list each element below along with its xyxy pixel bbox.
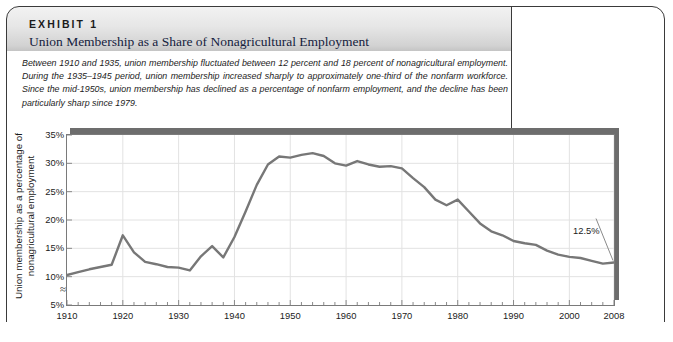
y-axis-tick-label: 15% bbox=[45, 242, 64, 253]
y-axis-tick-label: 5% bbox=[50, 299, 64, 310]
y-axis-tick-label: 25% bbox=[45, 186, 64, 197]
y-axis-tick-label: 35% bbox=[45, 129, 64, 140]
endpoint-annotation: 12.5% bbox=[573, 225, 600, 236]
x-axis-tick-label: 1990 bbox=[503, 310, 524, 321]
y-axis-tick-label: 30% bbox=[45, 157, 64, 168]
y-axis-break-icon: ≈ bbox=[60, 285, 66, 293]
y-axis-tick-label: 20% bbox=[45, 214, 64, 225]
x-axis-tick-label: 2000 bbox=[559, 310, 580, 321]
exhibit-header-band: EXHIBIT 1 Union Membership as a Share of… bbox=[7, 7, 511, 51]
exhibit-description: Between 1910 and 1935, union membership … bbox=[22, 57, 508, 110]
frame-bottom-mask bbox=[0, 322, 673, 342]
x-axis-tick-label: 1940 bbox=[224, 310, 245, 321]
exhibit-number-label: EXHIBIT 1 bbox=[29, 18, 98, 30]
x-axis-tick-label: 1980 bbox=[447, 310, 468, 321]
x-axis-tick-label: 1930 bbox=[168, 310, 189, 321]
column-divider bbox=[511, 7, 512, 129]
chart-container: 5%10%15%20%25%30%35% ≈ Union membership … bbox=[0, 126, 673, 342]
plot-area bbox=[66, 134, 615, 306]
x-axis-tick-label: 1950 bbox=[280, 310, 301, 321]
y-axis-label: Union membership as a percentage of nona… bbox=[13, 121, 37, 311]
y-axis-tick-label: 10% bbox=[45, 271, 64, 282]
x-axis-tick-label: 1910 bbox=[57, 310, 78, 321]
x-axis-tick-label: 1970 bbox=[391, 310, 412, 321]
exhibit-title: Union Membership as a Share of Nonagricu… bbox=[29, 34, 369, 50]
x-axis-tick-label: 1960 bbox=[336, 310, 357, 321]
x-axis-tick-label: 2008 bbox=[604, 310, 625, 321]
x-axis-tick-label: 1920 bbox=[112, 310, 133, 321]
line-chart-svg bbox=[67, 135, 614, 305]
